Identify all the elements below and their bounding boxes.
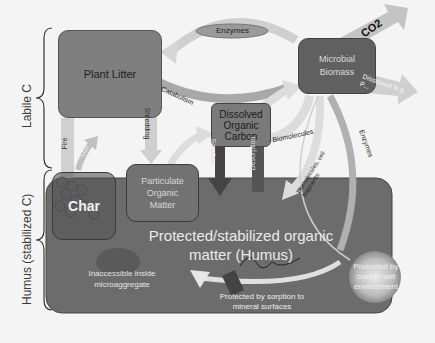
- microbial-biomass-label: Microbial Biomass: [309, 53, 365, 79]
- char-box[interactable]: Char: [52, 172, 116, 240]
- sorption-label: Sorption: [210, 138, 217, 164]
- inaccessible-label: Inaccessible inside microaggregate: [82, 268, 162, 290]
- particulate-label: Particulate Organic Matter: [133, 175, 192, 211]
- fire-label: Fire: [61, 137, 68, 149]
- char-label: Char: [68, 198, 100, 214]
- humus-title-line1: Protected/stabilized organic: [126, 226, 356, 245]
- sorption-protect-label: Protected by sorption to mineral surface…: [212, 292, 312, 312]
- shredding-label: Shredding: [144, 108, 151, 140]
- labile-c-label: Labile C: [20, 68, 34, 128]
- labile-bracket: [36, 28, 52, 168]
- particulate-box[interactable]: Particulate Organic Matter: [126, 164, 199, 222]
- plant-litter-box[interactable]: Plant Litter: [58, 30, 162, 118]
- humus-label: Humus (stabilized C): [20, 175, 34, 305]
- plant-litter-label: Plant Litter: [84, 68, 137, 80]
- doc-box[interactable]: Dissolved Organic Carbon: [211, 103, 271, 147]
- humus-title-line2: matter (Humus): [126, 245, 356, 264]
- humus-title: Protected/stabilized organic matter (Hum…: [126, 226, 356, 264]
- cold-wet-label: Protected by cold or wet environment: [352, 262, 400, 292]
- desorption-label: Desorption: [249, 137, 256, 171]
- doc-label: Dissolved Organic Carbon: [212, 109, 270, 142]
- enzymes-top-label: Enzymes: [216, 26, 249, 35]
